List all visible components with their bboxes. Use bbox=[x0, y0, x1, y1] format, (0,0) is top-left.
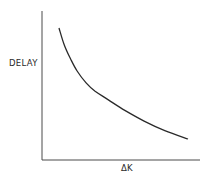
chart-canvas bbox=[0, 0, 207, 180]
y-axis-label: DELAY bbox=[9, 58, 38, 68]
delay-curve bbox=[59, 28, 188, 139]
x-axis-label: ΔK bbox=[121, 163, 133, 173]
